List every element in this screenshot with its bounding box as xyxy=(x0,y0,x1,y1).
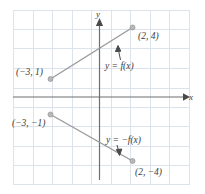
axes xyxy=(13,22,183,180)
point-marker-m3-1 xyxy=(48,77,53,82)
y-axis-arrowhead xyxy=(96,18,103,26)
point-marker-m3-m1 xyxy=(48,112,53,117)
label-curve-f: y = f(x) xyxy=(105,62,134,72)
label-point-minus3-1: (−3, 1) xyxy=(16,68,43,78)
point-marker-2-4 xyxy=(130,25,135,30)
label-curve-negative-f: y = −f(x) xyxy=(106,136,141,146)
label-point-2-4: (2, 4) xyxy=(138,32,159,42)
coordinate-plane xyxy=(0,0,205,194)
label-y-axis: y xyxy=(96,10,100,19)
graph-figure: (2, 4) (−3, 1) (−3, −1) (2, −4) y = f(x)… xyxy=(0,0,205,194)
label-point-2-minus4: (2, −4) xyxy=(135,168,162,178)
label-point-minus3-minus1: (−3, −1) xyxy=(12,119,45,129)
point-marker-2-m4 xyxy=(130,159,135,164)
label-x-axis: x xyxy=(189,93,193,102)
leader-arrow-f xyxy=(115,46,120,61)
